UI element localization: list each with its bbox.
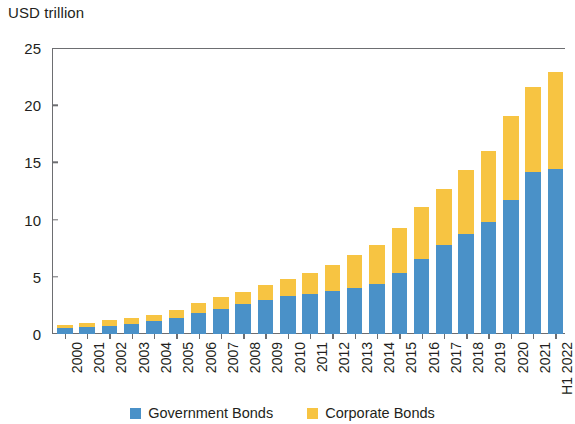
x-tick-mark xyxy=(265,334,266,339)
bar-segment-corporate-bonds xyxy=(191,303,207,313)
bar-segment-government-bonds xyxy=(414,259,430,335)
x-tick-label: 2008 xyxy=(248,342,262,373)
x-tick-label: 2000 xyxy=(70,342,84,373)
bar-segment-corporate-bonds xyxy=(369,245,385,284)
y-tick-label: 20 xyxy=(24,98,41,113)
legend-label: Corporate Bonds xyxy=(325,405,435,421)
bar-segment-corporate-bonds xyxy=(525,87,541,172)
x-tick-label: 2006 xyxy=(204,342,218,373)
x-tick-label: 2010 xyxy=(293,342,307,373)
x-tick-mark xyxy=(533,334,534,339)
bar-segment-corporate-bonds xyxy=(280,279,296,296)
bar-column xyxy=(79,323,95,334)
x-tick-mark xyxy=(154,334,155,339)
legend-label: Government Bonds xyxy=(148,405,273,421)
bar-column xyxy=(414,207,430,334)
x-tick-label: 2003 xyxy=(137,342,151,373)
bar-column xyxy=(280,279,296,334)
x-tick-label: 2009 xyxy=(270,342,284,373)
bar-segment-corporate-bonds xyxy=(548,72,564,169)
bar-column xyxy=(458,170,474,334)
x-tick-label: 2021 xyxy=(538,342,552,373)
bar-segment-government-bonds xyxy=(79,327,95,334)
x-tick-mark xyxy=(444,334,445,339)
bar-column xyxy=(102,320,118,334)
bar-segment-corporate-bonds xyxy=(258,285,274,300)
bar-column xyxy=(124,318,140,334)
x-tick-label: 2020 xyxy=(516,342,530,373)
x-tick-label: 2019 xyxy=(493,342,507,373)
bar-segment-corporate-bonds xyxy=(458,170,474,234)
x-tick-mark xyxy=(176,334,177,339)
bar-column xyxy=(369,245,385,334)
bar-column xyxy=(548,72,564,334)
bar-segment-corporate-bonds xyxy=(325,265,341,290)
y-tick-label: 5 xyxy=(33,269,41,284)
bar-segment-government-bonds xyxy=(302,294,318,334)
bar-segment-government-bonds xyxy=(369,284,385,334)
x-tick-label: 2001 xyxy=(92,342,106,373)
bar-segment-government-bonds xyxy=(280,296,296,334)
bar-segment-corporate-bonds xyxy=(169,310,185,318)
x-tick-mark xyxy=(109,334,110,339)
legend-swatch-icon xyxy=(307,408,318,419)
bar-segment-government-bonds xyxy=(146,321,162,334)
x-tick-label: 2018 xyxy=(471,342,485,373)
y-axis: 0510152025 xyxy=(0,48,52,334)
bar-segment-corporate-bonds xyxy=(235,292,251,305)
bar-column xyxy=(481,151,497,334)
x-tick-label: 2014 xyxy=(382,342,396,373)
x-tick-label: 2011 xyxy=(315,342,329,372)
y-axis-title: USD trillion xyxy=(8,4,84,21)
bar-segment-government-bonds xyxy=(124,324,140,334)
bar-segment-government-bonds xyxy=(525,172,541,334)
bar-segment-government-bonds xyxy=(347,288,363,334)
legend-item[interactable]: Corporate Bonds xyxy=(307,405,435,421)
x-tick-mark xyxy=(511,334,512,339)
x-tick-label: 2017 xyxy=(449,342,463,373)
bar-column xyxy=(503,116,519,335)
bar-column xyxy=(57,325,73,334)
bar-segment-corporate-bonds xyxy=(436,189,452,245)
legend-item[interactable]: Government Bonds xyxy=(130,405,273,421)
x-tick-label: 2015 xyxy=(404,342,418,373)
bar-segment-government-bonds xyxy=(258,300,274,334)
x-tick-mark xyxy=(243,334,244,339)
bar-segment-corporate-bonds xyxy=(481,151,497,222)
legend-swatch-icon xyxy=(130,408,141,419)
bar-segment-corporate-bonds xyxy=(213,297,229,308)
bar-segment-corporate-bonds xyxy=(146,315,162,322)
bar-segment-government-bonds xyxy=(213,309,229,334)
bar-segment-government-bonds xyxy=(548,169,564,334)
x-tick-mark xyxy=(555,334,556,339)
x-tick-mark xyxy=(65,334,66,339)
bar-segment-government-bonds xyxy=(191,313,207,334)
bar-column xyxy=(235,292,251,334)
bar-column xyxy=(436,189,452,334)
bar-segment-corporate-bonds xyxy=(503,116,519,201)
bar-column xyxy=(525,87,541,334)
y-tick-label: 10 xyxy=(24,212,41,227)
bar-segment-government-bonds xyxy=(481,222,497,334)
x-tick-label: 2002 xyxy=(114,342,128,373)
x-tick-mark xyxy=(132,334,133,339)
bar-segment-government-bonds xyxy=(102,326,118,334)
bar-segment-government-bonds xyxy=(458,234,474,334)
x-tick-mark xyxy=(422,334,423,339)
bar-segment-government-bonds xyxy=(392,273,408,334)
bar-column xyxy=(191,303,207,334)
bar-column xyxy=(169,310,185,334)
x-tick-mark xyxy=(288,334,289,339)
x-tick-mark xyxy=(488,334,489,339)
x-tick-label: H1 2022 xyxy=(560,342,574,395)
y-tick-label: 0 xyxy=(33,327,41,342)
x-tick-mark xyxy=(87,334,88,339)
x-tick-label: 2005 xyxy=(181,342,195,373)
x-tick-mark xyxy=(310,334,311,339)
bars-container xyxy=(53,48,565,334)
bar-segment-corporate-bonds xyxy=(302,273,318,294)
x-tick-mark xyxy=(399,334,400,339)
bar-column xyxy=(213,297,229,334)
bar-segment-government-bonds xyxy=(436,245,452,334)
